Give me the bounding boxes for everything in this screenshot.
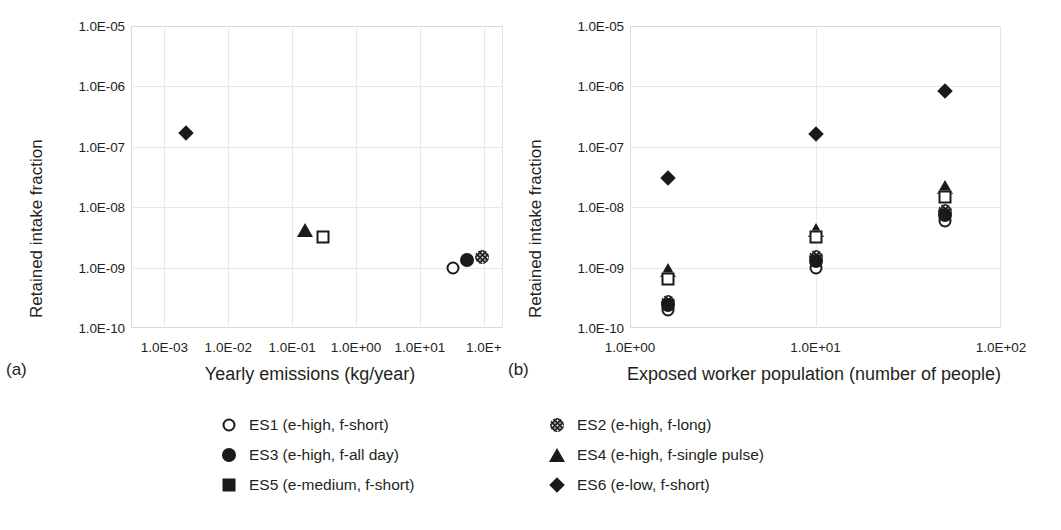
legend-item[interactable]: ES4 (e-high, f-single pulse) bbox=[546, 440, 764, 470]
legend-item-label: ES6 (e-low, f-short) bbox=[577, 476, 710, 494]
gridline-vertical bbox=[484, 26, 485, 328]
y-tick-label: 1.0E-07 bbox=[552, 139, 624, 154]
x-tick-label: 1.0E-03 bbox=[141, 340, 188, 355]
legend-item[interactable]: ES6 (e-low, f-short) bbox=[546, 470, 764, 500]
legend-marker-circle-open-icon bbox=[223, 419, 236, 432]
legend-marker-triangle-icon bbox=[546, 444, 568, 466]
y-tick-label: 1.0E-10 bbox=[552, 321, 624, 336]
x-tick-label: 1.0E+00 bbox=[605, 340, 656, 355]
y-tick-label: 1.0E-09 bbox=[53, 260, 125, 275]
legend-marker-circle-fill-icon bbox=[218, 444, 240, 466]
legend-marker-triangle-icon bbox=[549, 448, 565, 462]
legend-item[interactable]: ES5 (e-medium, f-short) bbox=[218, 470, 414, 500]
x-axis-title-a: Yearly emissions (kg/year) bbox=[100, 364, 520, 385]
legend-item-label: ES2 (e-high, f-long) bbox=[577, 416, 711, 434]
gridline-horizontal bbox=[630, 147, 1001, 148]
y-axis-title-b: Retained intake fraction bbox=[526, 139, 546, 318]
x-tick-label: 1.0E-01 bbox=[268, 340, 315, 355]
gridline-horizontal bbox=[131, 207, 503, 208]
x-tick-label: 1.0E+01 bbox=[395, 340, 446, 355]
legend-a: ES1 (e-high, f-short)ES3 (e-high, f-all … bbox=[218, 410, 414, 500]
gridline-vertical bbox=[164, 26, 165, 328]
gridline-vertical bbox=[816, 26, 817, 328]
legend-marker-square-fill-icon bbox=[223, 479, 236, 492]
data-point-square-open bbox=[939, 190, 952, 203]
panel-label-a: (a) bbox=[6, 360, 27, 380]
y-tick-label: 1.0E-06 bbox=[552, 79, 624, 94]
legend-marker-circle-fill-icon bbox=[222, 448, 236, 462]
legend-item[interactable]: ES3 (e-high, f-all day) bbox=[218, 440, 414, 470]
figure-scatter-panels: 1.0E-051.0E-061.0E-071.0E-081.0E-091.0E-… bbox=[0, 0, 1061, 530]
gridline-vertical bbox=[356, 26, 357, 328]
legend-marker-diamond-icon bbox=[549, 477, 565, 493]
legend-item-label: ES3 (e-high, f-all day) bbox=[249, 446, 399, 464]
x-tick-label: 1.0E+02 bbox=[976, 340, 1027, 355]
plot-area-a bbox=[131, 26, 503, 328]
legend-item-label: ES5 (e-medium, f-short) bbox=[249, 476, 414, 494]
panel-b: 1.0E-051.0E-061.0E-071.0E-081.0E-091.0E-… bbox=[520, 0, 1061, 400]
y-tick-label: 1.0E-07 bbox=[53, 139, 125, 154]
panel-a: 1.0E-051.0E-061.0E-071.0E-081.0E-091.0E-… bbox=[0, 0, 520, 400]
legend-marker-circle-open-icon bbox=[218, 414, 240, 436]
legend-b: ES2 (e-high, f-long)ES4 (e-high, f-singl… bbox=[546, 410, 764, 500]
panel-label-b: (b) bbox=[508, 360, 529, 380]
legend-item[interactable]: ES1 (e-high, f-short) bbox=[218, 410, 414, 440]
data-point-circle-fill bbox=[661, 298, 675, 312]
y-tick-label: 1.0E-10 bbox=[53, 321, 125, 336]
data-point-circle-fill bbox=[938, 208, 952, 222]
data-point-square-open bbox=[661, 272, 674, 285]
gridline-vertical bbox=[292, 26, 293, 328]
data-point-circle-fill bbox=[809, 254, 823, 268]
y-tick-label: 1.0E-08 bbox=[53, 200, 125, 215]
gridline-horizontal bbox=[131, 147, 503, 148]
legend-marker-square-fill-icon bbox=[218, 474, 240, 496]
x-tick-label: 1.0E+ bbox=[466, 340, 502, 355]
gridline-vertical bbox=[228, 26, 229, 328]
y-tick-label: 1.0E-09 bbox=[552, 260, 624, 275]
legend-item-label: ES1 (e-high, f-short) bbox=[249, 416, 389, 434]
legend-item-label: ES4 (e-high, f-single pulse) bbox=[577, 446, 764, 464]
data-point-circle-fill bbox=[460, 253, 474, 267]
x-axis-title-b: Exposed worker population (number of peo… bbox=[564, 364, 1061, 385]
y-tick-label: 1.0E-05 bbox=[53, 19, 125, 34]
data-point-circle-open bbox=[447, 261, 460, 274]
x-tick-label: 1.0E-02 bbox=[205, 340, 252, 355]
legend-marker-circle-dot-icon bbox=[546, 414, 568, 436]
data-point-circle-dot bbox=[475, 250, 489, 264]
data-point-square-open bbox=[316, 231, 329, 244]
gridline-vertical bbox=[420, 26, 421, 328]
x-tick-label: 1.0E+01 bbox=[790, 340, 841, 355]
gridline-horizontal bbox=[131, 86, 503, 87]
y-tick-label: 1.0E-08 bbox=[552, 200, 624, 215]
y-tick-label: 1.0E-05 bbox=[552, 19, 624, 34]
legend-marker-circle-dot-icon bbox=[550, 418, 564, 432]
legend-marker-diamond-icon bbox=[546, 474, 568, 496]
x-tick-label: 1.0E+00 bbox=[331, 340, 382, 355]
data-point-triangle bbox=[297, 223, 313, 237]
y-tick-label: 1.0E-06 bbox=[53, 79, 125, 94]
data-point-square-open bbox=[809, 231, 822, 244]
legend-item[interactable]: ES2 (e-high, f-long) bbox=[546, 410, 764, 440]
y-axis-title-a: Retained intake fraction bbox=[27, 139, 47, 318]
